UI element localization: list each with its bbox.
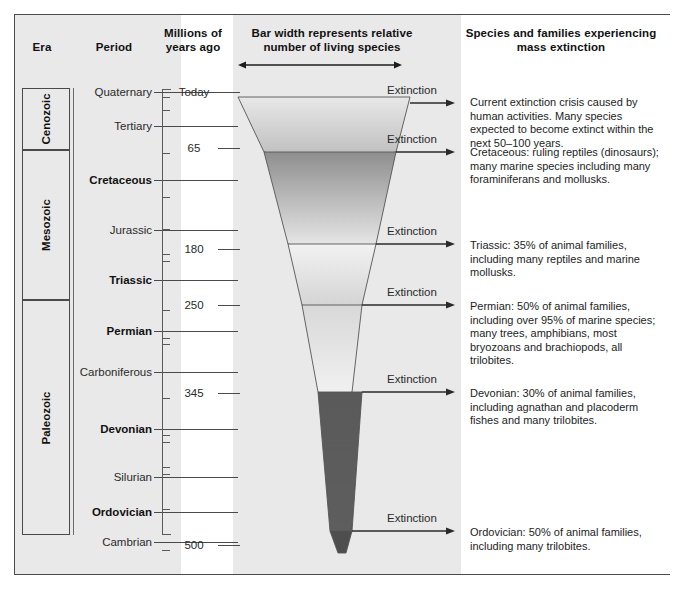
- period-label-triassic: Triassic: [76, 273, 152, 287]
- timescale-value: 500: [184, 539, 203, 551]
- period-label-cretaceous: Cretaceous: [76, 173, 152, 187]
- timescale-tick: [162, 310, 170, 311]
- header-millions-of-years-ago: Millions of years ago: [160, 26, 226, 54]
- period-leader-line: [154, 477, 238, 478]
- header-bar-width-legend: Bar width represents relative number of …: [232, 26, 432, 54]
- period-label-carboniferous: Carboniferous: [76, 365, 152, 379]
- era-label: Paleozoic: [40, 391, 52, 444]
- period-label-devonian: Devonian: [76, 422, 152, 436]
- header-species-mass-extinction: Species and families experiencing mass e…: [452, 26, 670, 54]
- period-label-jurassic: Jurassic: [76, 223, 152, 237]
- diagram-root: Era Period Millions of years ago Bar wid…: [0, 0, 687, 590]
- period-name: Tertiary: [114, 120, 152, 132]
- period-label-tertiary: Tertiary: [76, 119, 152, 133]
- era-cell-paleozoic: Paleozoic: [22, 300, 70, 535]
- timescale-cap: [162, 534, 171, 535]
- species-note-5: Ordovician: 50% of animal families, incl…: [470, 526, 666, 553]
- timescale-tick: [162, 442, 170, 443]
- timescale-value: 180: [184, 243, 203, 255]
- timescale-leader-line: [218, 305, 240, 306]
- timescale-leader-line: [218, 92, 240, 93]
- timescale-label-345: 345: [172, 386, 216, 400]
- timescale-tick: [162, 153, 170, 154]
- period-leader-line: [154, 512, 238, 513]
- era-label: Cenozoic: [40, 93, 52, 144]
- timescale-tick: [162, 261, 170, 262]
- period-leader-line: [154, 372, 238, 373]
- timescale-tick: [162, 435, 170, 436]
- extinction-label-1: Extinction: [387, 133, 437, 145]
- period-name: Ordovician: [92, 506, 152, 518]
- species-note-1: Cretaceous: ruling reptiles (dinosaurs);…: [470, 146, 666, 187]
- timescale-tick: [162, 474, 170, 475]
- period-column-rule: [73, 88, 74, 535]
- period-name: Cretaceous: [89, 174, 152, 186]
- period-name: Permian: [107, 325, 152, 337]
- timescale-tick: [162, 338, 170, 339]
- species-note-0: Current extinction crisis caused by huma…: [470, 96, 666, 150]
- period-name: Jurassic: [110, 224, 152, 236]
- timescale-tick: [162, 467, 170, 468]
- species-note-2: Triassic: 35% of animal families, includ…: [470, 239, 666, 280]
- timescale-tick: [162, 197, 170, 198]
- species-note-4: Devonian: 30% of animal families, includ…: [470, 387, 666, 428]
- timescale-value: 65: [188, 142, 201, 154]
- species-note-3: Permian: 50% of animal families, includi…: [470, 300, 666, 368]
- period-label-cambrian: Cambrian: [76, 535, 152, 549]
- period-label-permian: Permian: [76, 324, 152, 338]
- extinction-label-5: Extinction: [387, 512, 437, 524]
- era-label: Mesozoic: [40, 199, 52, 251]
- era-cell-cenozoic: Cenozoic: [22, 88, 70, 150]
- timescale-leader-line: [218, 393, 240, 394]
- period-name: Quaternary: [94, 86, 152, 98]
- timescale-leader-line: [218, 249, 240, 250]
- period-name: Triassic: [109, 274, 152, 286]
- period-leader-line: [154, 180, 238, 181]
- period-leader-line: [154, 126, 238, 127]
- timescale-tick: [162, 509, 170, 510]
- period-leader-line: [154, 230, 238, 231]
- extinction-label-3: Extinction: [387, 286, 437, 298]
- timescale-axis: [162, 89, 163, 535]
- period-name: Devonian: [100, 423, 152, 435]
- timescale-label-250: 250: [172, 298, 216, 312]
- header-era: Era: [14, 40, 70, 54]
- timescale-value: 250: [184, 299, 203, 311]
- timescale-label-500: 500: [172, 538, 216, 552]
- timescale-label-today: Today: [172, 85, 216, 99]
- era-cell-mesozoic: Mesozoic: [22, 150, 70, 300]
- period-label-silurian: Silurian: [76, 470, 152, 484]
- period-leader-line: [154, 429, 238, 430]
- extinction-label-2: Extinction: [387, 225, 437, 237]
- timescale-label-65: 65: [172, 141, 216, 155]
- extinction-label-0: Extinction: [387, 84, 437, 96]
- timescale-label-180: 180: [172, 242, 216, 256]
- timescale-leader-line: [218, 148, 240, 149]
- timescale-tick: [162, 110, 170, 111]
- timescale-tick: [162, 344, 170, 345]
- timescale-tick: [162, 254, 170, 255]
- timescale-tick: [162, 229, 170, 230]
- timescale-tick: [162, 97, 170, 98]
- extinction-label-4: Extinction: [387, 373, 437, 385]
- bar-width-double-arrow: [238, 60, 402, 70]
- timescale-cap: [162, 89, 171, 90]
- period-label-quaternary: Quaternary: [76, 85, 152, 99]
- period-leader-line: [154, 280, 238, 281]
- header-period: Period: [78, 40, 150, 54]
- timescale-tick: [162, 550, 170, 551]
- timescale-value: 345: [184, 387, 203, 399]
- timescale-value: Today: [179, 86, 210, 98]
- timescale-leader-line: [218, 545, 240, 546]
- period-name: Silurian: [114, 471, 152, 483]
- period-label-ordovician: Ordovician: [76, 505, 152, 519]
- period-name: Carboniferous: [80, 366, 152, 378]
- period-name: Cambrian: [102, 536, 152, 548]
- period-leader-line: [154, 331, 238, 332]
- timescale-tick: [162, 398, 170, 399]
